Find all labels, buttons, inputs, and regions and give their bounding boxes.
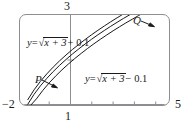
graph-figure: 3 −2 1 5 P Q y=√x + 3+ 0.1 y=√x + 3− 0.1 (0, 0, 192, 135)
radical-lower: √x + 3 (96, 73, 126, 85)
axis-label-xmin: −2 (2, 98, 15, 110)
pointer-q (141, 21, 155, 27)
radicand-upper: x + 3 (43, 37, 67, 49)
equation-upper-offset: + 0.1 (68, 37, 90, 48)
plot-canvas (0, 0, 192, 135)
equation-upper-curve: y=√x + 3+ 0.1 (27, 37, 89, 49)
axis-label-ymax: 3 (64, 0, 70, 12)
axis-label-xmax: 5 (175, 98, 181, 110)
equation-lower-curve: y=√x + 3− 0.1 (85, 73, 147, 85)
radical-upper: √x + 3 (38, 37, 68, 49)
point-label-p: P (35, 74, 42, 85)
point-label-q: Q (133, 15, 141, 26)
pointer-p (42, 80, 58, 88)
radicand-lower: x + 3 (101, 73, 125, 85)
axis-label-ymin: 1 (65, 110, 71, 122)
equation-lower-offset: − 0.1 (126, 73, 148, 84)
curve-upper-extension (136, 0, 149, 6)
curve-middle (28, 11, 137, 105)
